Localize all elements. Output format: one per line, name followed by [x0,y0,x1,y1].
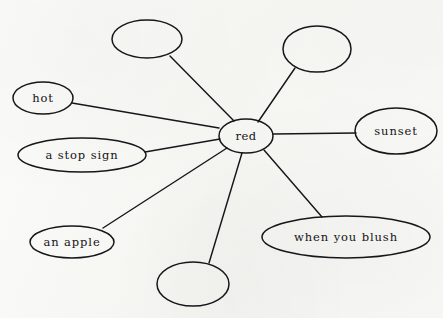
leaf-node-ellipse[interactable] [283,26,351,72]
nodes-group [13,20,437,306]
center-node-ellipse[interactable] [219,119,273,153]
leaf-node-ellipse[interactable] [112,20,182,58]
connector-line [170,56,234,121]
leaf-node-ellipse[interactable] [30,226,114,258]
connector-line [145,139,220,152]
concept-web-canvas [0,0,443,318]
connector-line [264,150,322,217]
leaf-node-ellipse[interactable] [13,82,73,114]
leaf-node-ellipse[interactable] [262,216,430,258]
edges-group [72,56,356,263]
connector-line [258,68,295,122]
word-association-web-page: redhotsunseta stop signan applewhen you … [0,0,443,318]
connector-line [103,148,227,228]
leaf-node-ellipse[interactable] [355,108,437,154]
connector-line [209,153,242,263]
connector-line [273,133,356,134]
leaf-node-ellipse[interactable] [157,262,229,306]
leaf-node-ellipse[interactable] [18,138,146,172]
connector-line [72,103,219,128]
